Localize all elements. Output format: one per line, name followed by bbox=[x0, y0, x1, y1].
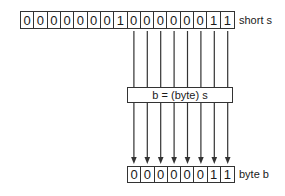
arrow-down-icon bbox=[225, 157, 231, 164]
arrow-down-icon bbox=[131, 157, 137, 164]
short-s-bit-cell: 0 bbox=[61, 12, 74, 28]
byte-b-label: byte b bbox=[239, 168, 269, 180]
byte-b-bit-cell: 1 bbox=[221, 167, 234, 182]
short-s-bit-cell: 0 bbox=[21, 12, 34, 28]
arrow-down-icon bbox=[171, 157, 177, 164]
cast-operation-box: b = (byte) s bbox=[127, 87, 233, 103]
byte-b-bit-cell: 0 bbox=[155, 167, 168, 182]
arrow-down-icon bbox=[158, 157, 164, 164]
short-s-bit-cell: 0 bbox=[88, 12, 101, 28]
short-s-bit-cell: 0 bbox=[167, 12, 180, 28]
short-s-bit-cell: 0 bbox=[101, 12, 114, 28]
short-s-bit-cell: 1 bbox=[114, 12, 127, 28]
short-s-bit-cell: 0 bbox=[34, 12, 47, 28]
byte-b-bit-cell: 0 bbox=[141, 167, 154, 182]
arrow-down-icon bbox=[145, 157, 151, 164]
byte-b-bit-cell: 0 bbox=[168, 167, 181, 182]
short-s-bit-cell: 1 bbox=[221, 12, 234, 28]
cast-operation-label: b = (byte) s bbox=[152, 89, 207, 101]
short-s-bit-cell: 0 bbox=[141, 12, 154, 28]
arrow-down-icon bbox=[212, 157, 218, 164]
short-s-bit-cell: 0 bbox=[74, 12, 87, 28]
byte-b-bit-row: 00000011 bbox=[127, 166, 235, 183]
short-s-bit-cell: 0 bbox=[181, 12, 194, 28]
byte-b-bit-cell: 1 bbox=[208, 167, 221, 182]
byte-b-bit-cell: 0 bbox=[181, 167, 194, 182]
byte-b-bit-cell: 0 bbox=[128, 167, 141, 182]
short-s-bit-cell: 0 bbox=[128, 12, 141, 28]
byte-b-bit-cell: 0 bbox=[194, 167, 207, 182]
arrow-down-icon bbox=[198, 157, 204, 164]
short-s-bit-cell: 1 bbox=[207, 12, 220, 28]
short-s-bit-row: 0000000100000011 bbox=[20, 11, 235, 29]
short-s-label: short s bbox=[239, 14, 272, 26]
short-s-bit-cell: 0 bbox=[154, 12, 167, 28]
short-s-bit-cell: 0 bbox=[194, 12, 207, 28]
short-s-bit-cell: 0 bbox=[48, 12, 61, 28]
arrow-down-icon bbox=[185, 157, 191, 164]
